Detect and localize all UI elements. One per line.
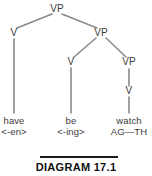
node-v-watch: V — [126, 86, 133, 96]
leaf-have-word: have — [1, 115, 26, 126]
node-vp-3: VP — [122, 57, 136, 67]
edge-vp2-vp3 — [106, 38, 126, 57]
leaf-watch-word: watch — [111, 115, 147, 126]
node-v-be: V — [68, 57, 75, 67]
edge-vp2-vbe — [74, 38, 96, 57]
node-vp-2: VP — [94, 28, 108, 38]
leaf-have: have <-en> — [1, 115, 26, 137]
leaf-be: be <-ing> — [57, 115, 85, 137]
leaf-watch: watch AG—TH — [111, 115, 147, 137]
diagram-caption: DIAGRAM 17.1 — [36, 161, 117, 174]
leaf-watch-annotation: AG—TH — [111, 126, 147, 137]
node-v-have: V — [11, 28, 18, 38]
leaf-be-word: be — [57, 115, 85, 126]
caption-divider — [40, 156, 118, 158]
node-vp-root: VP — [50, 4, 64, 14]
leaf-be-annotation: <-ing> — [57, 126, 85, 137]
edge-vproot-vp2 — [62, 14, 97, 28]
leaf-have-annotation: <-en> — [1, 126, 26, 137]
edge-vproot-vhave — [17, 14, 52, 28]
diagram-figure: VP V VP V VP V have <-en> be <-ing> watc… — [0, 0, 152, 176]
